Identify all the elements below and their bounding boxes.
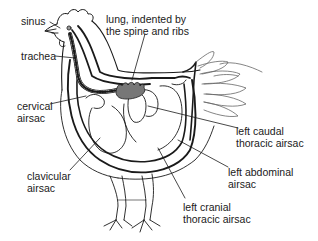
label-sinus: sinus xyxy=(21,15,46,27)
leader-cranial-thoracic xyxy=(158,148,185,198)
label-clavicular-airsac: clavicular airsac xyxy=(27,170,71,194)
tail-feathers xyxy=(196,52,262,117)
label-left-caudal-thoracic-airsac: left caudal thoracic airsac xyxy=(236,125,304,149)
label-left-abdominal-airsac: left abdominal airsac xyxy=(228,166,293,190)
comb xyxy=(57,10,93,24)
leader-clavicular xyxy=(70,138,100,170)
cervical-airsac-outline xyxy=(86,94,104,108)
leader-trachea xyxy=(55,56,75,58)
leader-abdominal xyxy=(178,140,228,167)
legs xyxy=(104,174,160,232)
neck-front-outline xyxy=(62,42,64,90)
lung xyxy=(116,82,145,99)
label-lung: lung, indented by the spine and ribs xyxy=(106,13,189,37)
leader-sinus xyxy=(50,22,60,28)
chicken-airsac-diagram: sinus lung, indented by the spine and ri… xyxy=(0,0,318,241)
label-left-cranial-thoracic-airsac: left cranial thoracic airsac xyxy=(183,201,251,225)
label-cervical-airsac: cervical airsac xyxy=(17,100,53,124)
clavicular-airsac-outline xyxy=(89,106,127,153)
label-trachea: trachea xyxy=(21,50,56,62)
